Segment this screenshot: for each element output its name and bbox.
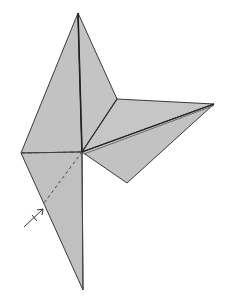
left-upper-flap [21, 13, 82, 153]
fold-arrow-icon [24, 209, 43, 227]
origami-diagram [0, 0, 227, 304]
paper-model [21, 13, 214, 290]
